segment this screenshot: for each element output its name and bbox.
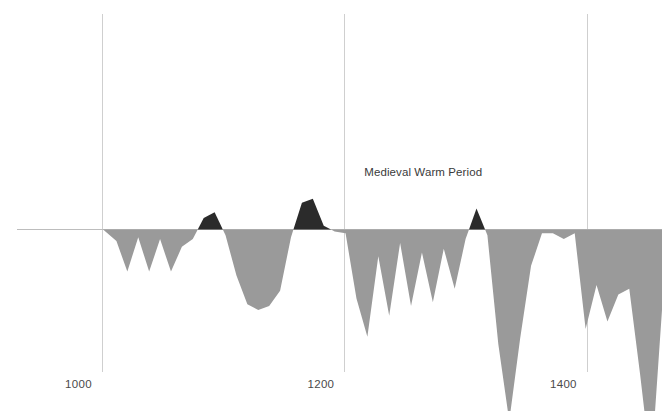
x-tick-label-1000: 1000: [65, 378, 92, 390]
negative-anomaly-segment: [223, 230, 294, 310]
annotation-medieval-warm-period: Medieval Warm Period: [364, 166, 482, 178]
x-tick-label-1400: 1400: [550, 378, 577, 390]
x-tick-label-1200: 1200: [308, 378, 335, 390]
positive-anomaly-segment: [293, 199, 331, 230]
positive-anomaly-segment: [469, 208, 485, 229]
chart-container: 100012001400 Medieval Warm Period: [0, 0, 662, 411]
chart-annotations: Medieval Warm Period: [364, 166, 482, 178]
temperature-anomaly-area-chart: 100012001400 Medieval Warm Period: [0, 0, 662, 411]
data-area-group: [103, 199, 662, 411]
positive-anomaly-segment: [198, 212, 223, 229]
x-axis-tick-labels: 100012001400: [65, 378, 577, 390]
negative-anomaly-segment: [103, 230, 198, 272]
negative-anomaly-segment: [331, 230, 469, 337]
